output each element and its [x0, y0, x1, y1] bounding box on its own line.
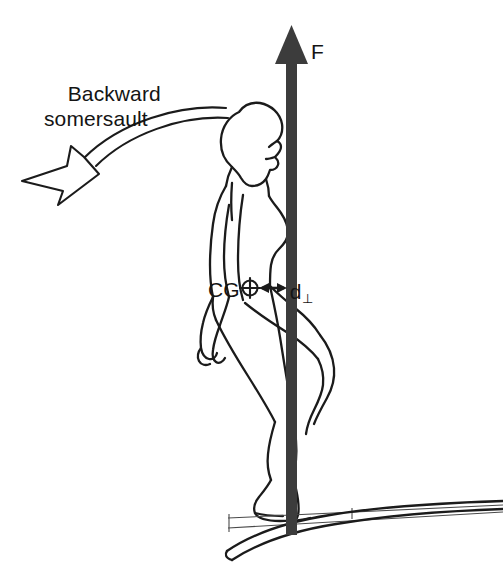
cg-marker — [240, 278, 260, 298]
moment-arm-label: d⊥ — [266, 253, 313, 332]
beam — [226, 501, 503, 560]
diagram-root: Backwardsomersault F CG d⊥ — [0, 0, 503, 579]
center-of-gravity-label: CG — [208, 277, 240, 303]
somersault-label-line1: Backward — [68, 82, 161, 105]
force-label: F — [311, 39, 324, 65]
backward-somersault-label: Backwardsomersault — [44, 55, 161, 183]
perpendicular-subscript-icon: ⊥ — [302, 291, 313, 306]
somersault-label-line2: somersault — [44, 106, 161, 132]
moment-arm-symbol: d — [290, 280, 302, 303]
